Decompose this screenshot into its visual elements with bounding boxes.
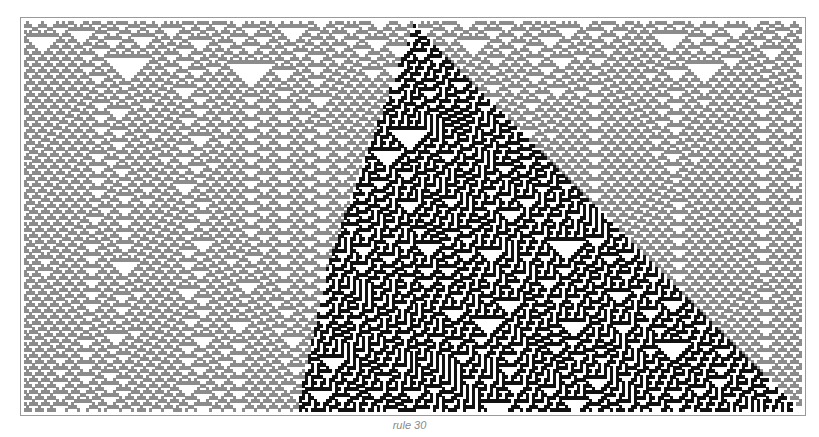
figure-frame bbox=[20, 17, 806, 416]
figure-caption: rule 30 bbox=[0, 419, 819, 431]
cellular-automaton-image bbox=[24, 21, 802, 412]
